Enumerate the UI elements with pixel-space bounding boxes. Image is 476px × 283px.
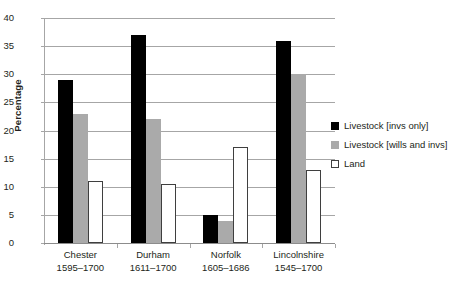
legend-item: Livestock [invs only] [331, 116, 474, 135]
bar [306, 170, 321, 243]
y-axis-tick-label: 5 [0, 210, 14, 220]
category-period: 1545–1700 [262, 261, 335, 274]
y-axis-tick-label: 15 [0, 154, 14, 164]
category-period: 1605–1686 [190, 261, 263, 274]
x-axis-category-label: Chester1595–1700 [44, 248, 117, 274]
bar [203, 215, 218, 243]
y-axis-tick-label: 25 [0, 97, 14, 107]
category-period: 1595–1700 [44, 261, 117, 274]
y-axis-tick-label: 20 [0, 126, 14, 136]
legend-swatch-icon [331, 122, 339, 130]
category-name: Lincolnshire [273, 249, 324, 260]
legend-label: Livestock [invs only] [344, 120, 428, 131]
bar-chart: Percentage 4035302520151050 Chester1595–… [0, 0, 476, 283]
legend-swatch-icon [331, 160, 339, 168]
x-axis-category-label: Lincolnshire1545–1700 [262, 248, 335, 274]
x-axis-category-label: Norfolk1605–1686 [190, 248, 263, 274]
bar [233, 147, 248, 243]
y-axis-tick-label: 0 [0, 238, 14, 248]
legend: Livestock [invs only]Livestock [wills an… [331, 116, 474, 173]
bar [276, 41, 291, 244]
legend-swatch-icon [331, 141, 339, 149]
legend-label: Land [344, 158, 365, 169]
bar [218, 221, 233, 244]
y-axis-tick-label: 10 [0, 182, 14, 192]
x-axis-category-labels: Chester1595–1700Durham1611–1700Norfolk16… [44, 248, 335, 282]
bar [73, 114, 88, 243]
x-axis-tick-mark [335, 244, 336, 248]
y-axis-tick-label: 40 [0, 13, 14, 23]
legend-label: Livestock [wills and invs] [344, 139, 447, 150]
legend-item: Livestock [wills and invs] [331, 135, 474, 154]
bar [291, 74, 306, 243]
bar [131, 35, 146, 243]
category-period: 1611–1700 [117, 261, 190, 274]
plot-area [44, 18, 335, 244]
y-axis-tick-label: 35 [0, 41, 14, 51]
legend-item: Land [331, 154, 474, 173]
bar [161, 184, 176, 243]
bar [88, 181, 103, 243]
x-axis-category-label: Durham1611–1700 [117, 248, 190, 274]
bar [146, 119, 161, 243]
bars-layer [44, 18, 335, 244]
y-axis-tick-labels: 4035302520151050 [0, 0, 44, 283]
category-name: Norfolk [211, 249, 241, 260]
category-name: Chester [64, 249, 97, 260]
y-axis-tick-label: 30 [0, 69, 14, 79]
bar [58, 80, 73, 243]
category-name: Durham [136, 249, 170, 260]
